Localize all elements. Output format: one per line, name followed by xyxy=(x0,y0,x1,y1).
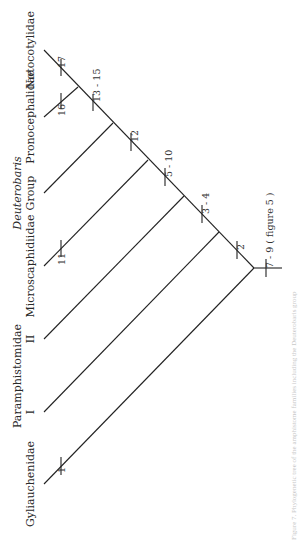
char-label-2: 2 xyxy=(235,244,246,250)
char-label-7-9: 7 - 9 ( figure 5 ) xyxy=(264,192,275,268)
taxon-label-paramphistomidae-i: I xyxy=(24,410,37,414)
branch-gyliauchenidae xyxy=(44,268,254,484)
char-label-17: 17 xyxy=(56,56,67,68)
char-label-12: 12 xyxy=(129,130,140,142)
taxon-label-deuterobaris: Deuterobaris xyxy=(11,156,24,231)
taxon-label-pronocephalidae: Pronocephalidae xyxy=(24,70,37,164)
char-label-5-10: 5 - 10 xyxy=(163,150,174,177)
taxon-label-paramphistomidae: Paramphistomidae xyxy=(11,324,24,428)
figure-caption: Figure 7. Phylogenetic tree of the amphi… xyxy=(290,291,298,540)
branch-deuterobaris-group xyxy=(44,123,113,193)
branch-paramphistomidae-i xyxy=(44,232,219,412)
taxon-label-group: Group xyxy=(24,176,37,211)
char-label-3-4: 3 - 4 xyxy=(200,193,211,214)
taxon-label-gyliauchenidae: Gyliauchenidae xyxy=(24,441,37,527)
char-label-1: 1 xyxy=(56,467,67,473)
backbone-branch xyxy=(44,50,254,268)
char-label-13-15: 13 - 15 xyxy=(91,69,102,102)
taxon-label-paramphistomidae-ii: II xyxy=(24,335,37,344)
char-label-11: 11 xyxy=(56,253,67,265)
branch-microscaphidiidae xyxy=(44,160,148,266)
cladogram-svg: 1 2 3 - 4 5 - 10 11 12 13 - 15 16 17 7 -… xyxy=(0,0,300,553)
char-label-16: 16 xyxy=(56,104,67,116)
taxon-label-microscaphidiidae: Microscaphidiidae xyxy=(24,214,37,317)
branch-paramphistomidae-ii xyxy=(44,196,184,339)
cladogram-figure: 1 2 3 - 4 5 - 10 11 12 13 - 15 16 17 7 -… xyxy=(0,0,300,553)
